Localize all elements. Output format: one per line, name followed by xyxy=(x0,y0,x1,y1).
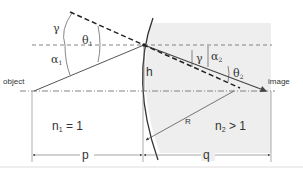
incident-ray xyxy=(34,45,144,91)
R-label: R xyxy=(185,117,191,126)
image-label: image xyxy=(268,77,290,86)
optics-diagram: object image γ θ1 α1 h γ α2 θ2 R n1 = 1 … xyxy=(0,0,303,173)
n1-label: n1 = 1 xyxy=(52,119,83,133)
theta1-label: θ1 xyxy=(82,34,92,47)
alpha1-label: α1 xyxy=(51,53,62,66)
n2-label: n2 > 1 xyxy=(215,119,246,133)
gamma-label: γ xyxy=(53,22,60,35)
gamma-arc xyxy=(64,13,72,45)
p-label: p xyxy=(82,148,89,162)
object-label: object xyxy=(3,77,25,86)
alpha1-arc xyxy=(65,45,70,75)
medium-n2-region xyxy=(145,23,271,153)
refraction-point xyxy=(142,43,146,47)
h-label: h xyxy=(146,65,153,79)
theta1-arc xyxy=(98,26,100,62)
gamma2-label: γ xyxy=(196,52,203,65)
q-label: q xyxy=(203,148,210,162)
